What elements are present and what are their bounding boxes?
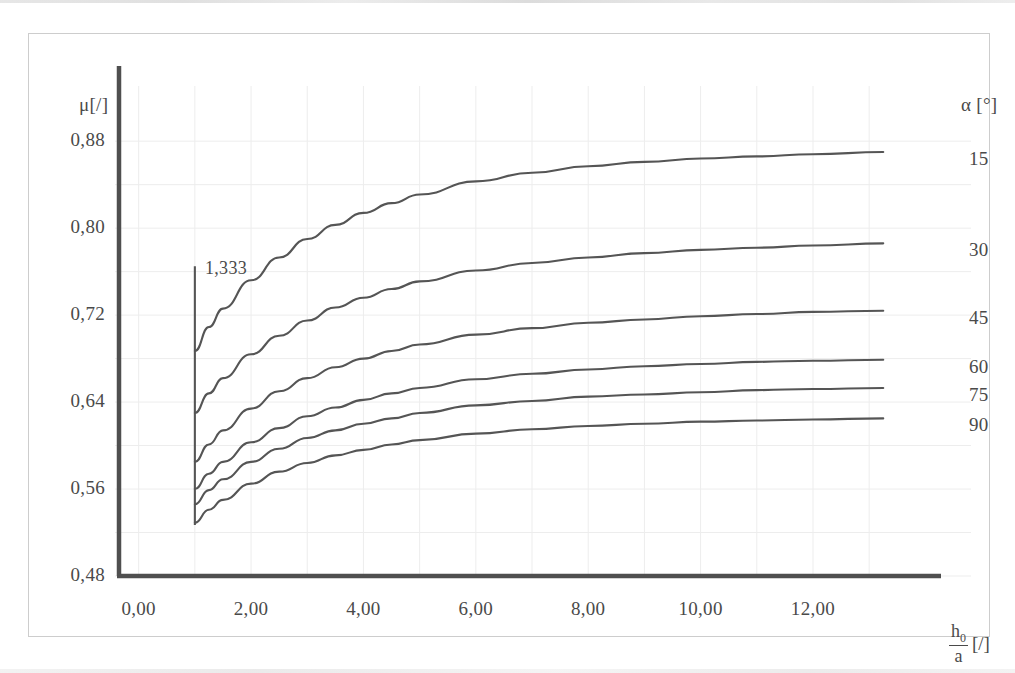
figure-frame: μ[/] α [°] 1,333 0,880,800,720,640,560,4… <box>28 33 990 637</box>
x-axis-title-unit: [/] <box>972 633 990 655</box>
axis-lines <box>117 66 941 576</box>
x-axis-title-num-text: h <box>951 621 960 641</box>
alpha-axis-title: α [°] <box>961 94 997 116</box>
x-tick-label: 6,00 <box>436 598 516 620</box>
x-axis-title-denominator: a <box>953 647 965 665</box>
y-tick-label: 0,80 <box>35 216 105 238</box>
y-tick-label: 0,48 <box>35 564 105 586</box>
x-tick-label: 10,00 <box>661 598 741 620</box>
y-tick-label: 0,56 <box>35 477 105 499</box>
scan-top-edge <box>0 0 1015 3</box>
alpha-legend-label-75: 75 <box>969 384 1015 406</box>
chart-plot-area <box>29 34 989 636</box>
x-axis-title-num-subscript: 0 <box>960 631 966 645</box>
x-axis-title-numerator: h0 <box>949 622 968 644</box>
y-tick-label: 0,64 <box>35 390 105 412</box>
x-tick-label: 2,00 <box>211 598 291 620</box>
x-axis-title-fraction: h0 a <box>949 622 968 666</box>
x-tick-label: 8,00 <box>548 598 628 620</box>
x-tick-label: 12,00 <box>773 598 853 620</box>
alpha-legend-label-45: 45 <box>969 307 1015 329</box>
x-tick-label: 4,00 <box>323 598 403 620</box>
x-tick-label: 0,00 <box>99 598 179 620</box>
alpha-legend-label-90: 90 <box>969 414 1015 436</box>
curve-lines <box>195 152 883 523</box>
alpha-legend-label-60: 60 <box>969 356 1015 378</box>
annotation-1333-label: 1,333 <box>205 258 247 279</box>
alpha-legend-label-15: 15 <box>969 148 1015 170</box>
x-axis-title: h0 a [/] <box>949 622 990 666</box>
y-tick-label: 0,72 <box>35 303 105 325</box>
scan-bottom-edge <box>0 669 1015 673</box>
grid-lines <box>115 86 971 576</box>
alpha-legend-label-30: 30 <box>969 239 1015 261</box>
y-axis-title: μ[/] <box>79 94 149 116</box>
y-tick-label: 0,88 <box>35 129 105 151</box>
